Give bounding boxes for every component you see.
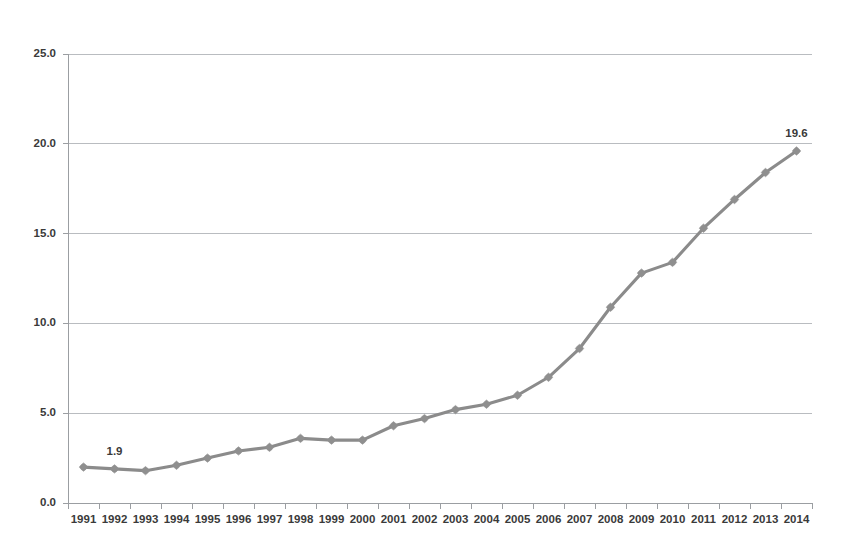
chart-container: 0.05.010.015.020.025.0 19911992199319941… (0, 0, 845, 554)
x-tick-label-1991: 1991 (71, 513, 97, 525)
x-tick-label-1994: 1994 (164, 513, 190, 525)
x-tick-label-2010: 2010 (660, 513, 686, 525)
y-tick-label-25.0: 25.0 (34, 47, 56, 59)
x-tick-label-1992: 1992 (102, 513, 128, 525)
x-tick-label-2008: 2008 (598, 513, 624, 525)
x-tick-label-1996: 1996 (226, 513, 252, 525)
y-tick-label-15.0: 15.0 (34, 227, 56, 239)
x-tick-label-2013: 2013 (753, 513, 779, 525)
x-tick-label-1993: 1993 (133, 513, 159, 525)
x-tick-label-2009: 2009 (629, 513, 655, 525)
x-tick-label-2014: 2014 (784, 513, 810, 525)
x-tick-label-1995: 1995 (195, 513, 221, 525)
y-tick-label-0.0: 0.0 (40, 496, 56, 508)
x-tick-label-2000: 2000 (350, 513, 376, 525)
x-tick-label-2004: 2004 (474, 513, 500, 525)
x-tick-label-2001: 2001 (381, 513, 407, 525)
x-tick-label-2002: 2002 (412, 513, 438, 525)
x-tick-label-2003: 2003 (443, 513, 469, 525)
x-tick-label-2011: 2011 (691, 513, 717, 525)
x-tick-label-2012: 2012 (722, 513, 748, 525)
x-tick-label-2005: 2005 (505, 513, 531, 525)
line-chart: 0.05.010.015.020.025.0 19911992199319941… (0, 0, 845, 554)
x-tick-label-2006: 2006 (536, 513, 562, 525)
x-tick-label-1997: 1997 (257, 513, 283, 525)
x-tick-label-1999: 1999 (319, 513, 345, 525)
y-tick-label-20.0: 20.0 (34, 137, 56, 149)
data-label-1992: 1.9 (107, 445, 123, 457)
y-tick-label-5.0: 5.0 (40, 406, 56, 418)
x-tick-label-1998: 1998 (288, 513, 314, 525)
x-tick-label-2007: 2007 (567, 513, 593, 525)
y-tick-label-10.0: 10.0 (34, 316, 56, 328)
data-label-2014: 19.6 (785, 127, 807, 139)
